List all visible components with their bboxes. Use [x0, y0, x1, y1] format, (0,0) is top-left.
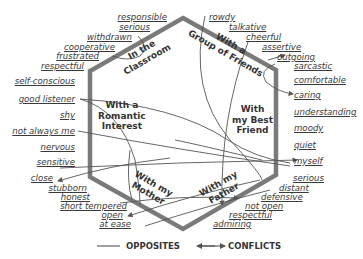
word-right: caring [294, 90, 321, 100]
context-label-line: With a [98, 100, 146, 111]
word-right: serious [293, 173, 324, 183]
word-right: talkative [229, 22, 266, 32]
word-right: rowdy [209, 12, 235, 22]
context-label-line: my Best [232, 115, 273, 126]
legend-opposites: OPPOSITES [126, 241, 180, 251]
word-left: shy [60, 110, 75, 120]
word-left: withdrawn [87, 32, 132, 42]
context-best-friend: With my Best Friend [232, 104, 273, 136]
word-left: serious [119, 22, 150, 32]
word-left: nervous [40, 142, 75, 152]
context-label-line: Friend [232, 125, 273, 136]
context-label-line: Interest [98, 121, 146, 132]
word-right: comfortable [294, 75, 346, 85]
word-left: self-conscious [15, 76, 75, 86]
legend-conflicts: CONFLICTS [228, 241, 281, 251]
word-left: frustrated [56, 51, 99, 61]
context-label-line: With [232, 104, 273, 115]
word-right: cheerful [246, 32, 281, 42]
word-left: good listener [19, 94, 75, 104]
word-right: sarcastic [294, 61, 332, 71]
word-right: quiet [294, 140, 316, 150]
word-right: moody [294, 123, 323, 133]
word-left: at ease [99, 219, 131, 229]
context-romantic-interest: With a Romantic Interest [98, 100, 146, 132]
word-left: respectful [41, 61, 84, 71]
word-left: close [31, 173, 53, 183]
word-left: not always me [12, 126, 75, 136]
word-right: understanding [294, 107, 356, 117]
context-label-line: Romantic [98, 111, 146, 122]
self-concept-diagram: In the Classroom With a Group of Friends… [0, 0, 363, 259]
word-left: responsible [118, 12, 167, 22]
word-left: sensitive [37, 157, 75, 167]
word-right: myself [294, 156, 323, 166]
word-right: admiring [213, 219, 251, 229]
word-right: assertive [262, 42, 301, 52]
